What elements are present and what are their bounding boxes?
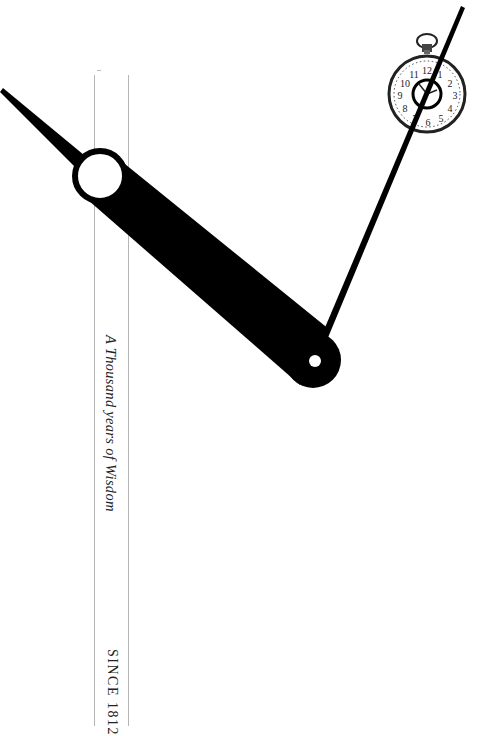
svg-text:11: 11 <box>409 69 419 80</box>
tagline-text: A Thousand years of Wisdom <box>102 335 119 512</box>
pocket-watch-icon: 12 1 2 3 4 5 6 7 8 9 10 11 <box>389 34 465 132</box>
hub-pin <box>309 355 321 367</box>
svg-text:4: 4 <box>448 103 453 114</box>
svg-text:2: 2 <box>448 78 453 89</box>
svg-text:3: 3 <box>453 90 458 101</box>
hour-hand-ring <box>75 151 125 201</box>
svg-text:9: 9 <box>398 90 403 101</box>
svg-text:8: 8 <box>403 103 408 114</box>
svg-text:5: 5 <box>439 113 444 124</box>
svg-text:12: 12 <box>422 65 432 76</box>
minute-hand <box>321 6 465 340</box>
since-year-text: SINCE 1812 <box>104 649 120 736</box>
hour-hand-tail <box>0 88 90 172</box>
svg-text:6: 6 <box>426 117 431 128</box>
